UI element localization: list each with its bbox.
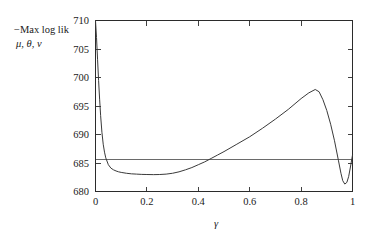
y-axis-ticks-right [348, 21, 353, 192]
y-tick-label-685: 685 [73, 158, 89, 169]
x-tick-label-0: 0 [93, 196, 98, 207]
plot-frame [96, 21, 353, 192]
chart-figure: 710 705 700 695 690 685 680 0 0.2 0.4 0.… [0, 0, 369, 236]
y-axis-title-line1: −Max log lik [14, 24, 70, 35]
x-tick-label-0-8: 0.8 [295, 196, 308, 207]
x-axis-ticks-top [147, 21, 301, 26]
y-tick-label-680: 680 [73, 186, 89, 197]
x-tick-label-1: 1 [350, 196, 355, 207]
x-tick-label-0-4: 0.4 [192, 196, 206, 207]
x-axis-ticks-bottom [96, 187, 353, 192]
chart-canvas: 710 705 700 695 690 685 680 0 0.2 0.4 0.… [0, 0, 369, 236]
x-tick-label-0-6: 0.6 [243, 196, 256, 207]
y-tick-label-700: 700 [73, 72, 89, 83]
y-tick-label-690: 690 [73, 129, 89, 140]
y-tick-label-710: 710 [73, 15, 89, 26]
x-tick-label-0-2: 0.2 [140, 196, 153, 207]
y-tick-label-705: 705 [73, 44, 89, 55]
y-tick-label-695: 695 [73, 101, 89, 112]
x-axis-title: γ [214, 218, 219, 229]
y-axis-title-line2: μ, θ, ν [15, 38, 42, 49]
